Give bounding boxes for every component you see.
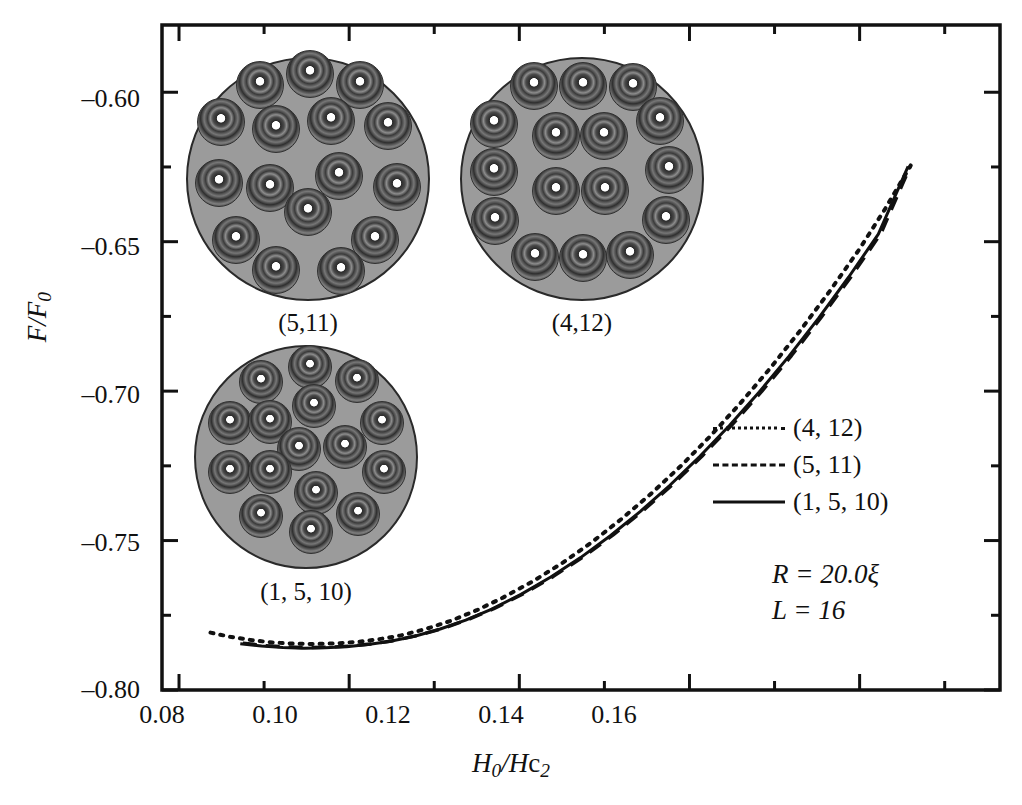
- legend-label: (5, 11): [793, 450, 861, 480]
- vortex-inset-1-5-10: (1, 5, 10): [194, 345, 418, 612]
- vortex-inset-4-12: (4,12): [460, 57, 704, 343]
- vortex-core: [239, 494, 283, 538]
- legend-label: (4, 12): [793, 413, 862, 443]
- x-tick-label-1: 0.10: [252, 700, 298, 730]
- vortex-core: [288, 345, 332, 389]
- x-tick-label-4: 0.16: [591, 700, 637, 730]
- vortex-core: [645, 146, 693, 194]
- vortex-core: [336, 492, 380, 536]
- vortex-core: [252, 246, 300, 294]
- vortex-core: [236, 61, 284, 109]
- legend-line-dashed-icon: [713, 458, 785, 472]
- vortex-core: [208, 401, 252, 445]
- vortex-core: [642, 196, 690, 244]
- vortex-core: [195, 159, 243, 207]
- y-tick-label-2: –0.70: [30, 380, 140, 410]
- vortex-core: [197, 98, 245, 146]
- vortex-core: [362, 450, 406, 494]
- vortex-core: [559, 62, 607, 110]
- vortex-core: [307, 97, 355, 145]
- vortex-core: [248, 450, 292, 494]
- vortex-core: [323, 425, 367, 469]
- vortex-core: [286, 50, 334, 98]
- vortex-core: [581, 167, 629, 215]
- y-tick-label-4: –0.80: [30, 675, 140, 705]
- vortex-core: [292, 384, 336, 428]
- vortex-core: [510, 62, 558, 110]
- vortex-core: [364, 102, 412, 150]
- vortex-core: [289, 510, 333, 554]
- vortex-core: [252, 105, 300, 153]
- vortex-core: [559, 234, 607, 282]
- vortex-core: [239, 360, 283, 404]
- vortex-core: [470, 148, 518, 196]
- figure-container: –0.60 –0.65 –0.70 –0.75 –0.80 0.08 0.10 …: [0, 0, 1022, 805]
- legend-line-solid-icon: [713, 495, 785, 509]
- vortex-core: [284, 188, 332, 236]
- x-axis-title: H0/Hc2: [472, 748, 550, 782]
- inset-caption: (4,12): [460, 309, 704, 337]
- y-tick-label-1: –0.65: [30, 232, 140, 262]
- vortex-core: [580, 112, 628, 160]
- vortex-core: [335, 359, 379, 403]
- legend-line-dotted-icon: [713, 421, 785, 435]
- vortex-core: [373, 163, 421, 211]
- x-tick-label-0: 0.08: [139, 700, 185, 730]
- vortex-core: [212, 216, 260, 264]
- y-tick-label-0: –0.60: [30, 84, 140, 114]
- inset-caption: (1, 5, 10): [194, 578, 418, 606]
- legend-entry-5-11: (5, 11): [713, 446, 888, 483]
- vortex-core: [317, 247, 365, 295]
- y-tick-label-3: –0.75: [30, 528, 140, 558]
- annotation-vorticity: L = 16: [772, 592, 879, 628]
- vortex-core: [532, 112, 580, 160]
- legend-label: (1, 5, 10): [793, 487, 888, 517]
- vortex-core: [470, 100, 518, 148]
- vortex-inset-5-11: (5,11): [186, 57, 430, 343]
- vortex-core: [471, 197, 519, 245]
- x-tick-label-2: 0.12: [365, 700, 411, 730]
- legend: (4, 12) (5, 11) (1, 5, 10): [713, 409, 888, 520]
- vortex-core: [511, 233, 559, 281]
- y-axis-title: F/F0: [22, 292, 56, 342]
- superconductor-disc: [186, 57, 430, 301]
- vortex-core: [208, 450, 252, 494]
- legend-entry-4-12: (4, 12): [713, 409, 888, 446]
- vortex-core: [532, 167, 580, 215]
- vortex-core: [294, 471, 338, 515]
- annotation-radius: R = 20.0ξ: [772, 556, 879, 592]
- vortex-core: [606, 231, 654, 279]
- vortex-core: [636, 97, 684, 145]
- superconductor-disc: [460, 57, 704, 301]
- legend-entry-1-5-10: (1, 5, 10): [713, 483, 888, 520]
- x-tick-label-3: 0.14: [478, 700, 524, 730]
- inset-caption: (5,11): [186, 309, 430, 337]
- vortex-core: [360, 401, 404, 445]
- parameter-annotations: R = 20.0ξ L = 16: [772, 556, 879, 628]
- superconductor-disc: [194, 345, 418, 569]
